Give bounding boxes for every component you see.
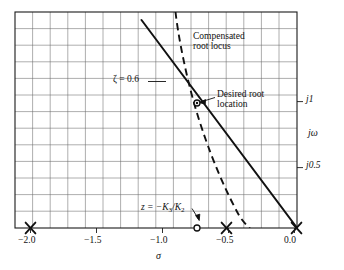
- zero-value-label-sub2: 2: [181, 206, 185, 214]
- y-axis-label: jω: [308, 128, 318, 139]
- plot-canvas: [0, 0, 344, 270]
- zero-label-arrow: [192, 209, 200, 221]
- x-tick-label-neg1p5: −1.5: [84, 236, 102, 246]
- y-tick-label-j0p5: j0.5: [306, 161, 321, 171]
- zero-value-label-slash: /K: [172, 202, 181, 212]
- zero-value-label-prefix: z = −K: [141, 202, 169, 212]
- desired-root-location-marker: [194, 100, 200, 106]
- y-axis-ticks: [297, 102, 303, 168]
- x-axis-ticks: [31, 228, 295, 233]
- zero-value-label: z = −K3/K2: [141, 203, 185, 214]
- x-tick-label-neg2: −2.0: [18, 236, 36, 246]
- desired-root-location-label-line2: location: [217, 100, 264, 110]
- compensated-root-locus-label: Compensated root locus: [193, 32, 245, 52]
- x-axis-label: σ: [156, 251, 161, 262]
- zero-marker: [194, 225, 200, 231]
- y-tick-label-j1: j1: [306, 95, 313, 105]
- x-tick-label-neg0p5: −0.5: [216, 236, 234, 246]
- damping-ratio-label: ζ = 0.6: [113, 75, 139, 85]
- desired-root-location-label: Desired root location: [217, 90, 264, 110]
- compensated-root-locus-label-line2: root locus: [193, 42, 245, 52]
- x-tick-label-0: 0.0: [284, 236, 296, 246]
- x-tick-label-neg1: −1.0: [150, 236, 168, 246]
- root-locus-figure: Compensated root locus ζ = 0.6 Desired r…: [0, 0, 344, 270]
- grid-lines: [15, 12, 297, 228]
